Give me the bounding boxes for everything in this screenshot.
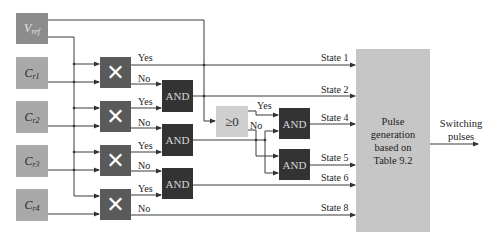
m2-no-label: No	[138, 118, 150, 128]
pulse-generation-block: Pulse generation based on Table 9.2	[356, 49, 430, 232]
m2-yes-label: Yes	[138, 97, 153, 107]
cr4-block: Cr4	[16, 189, 48, 221]
cr4-label: Cr4	[24, 198, 39, 213]
and-gate-3: AND	[162, 168, 193, 199]
m4-yes-label: Yes	[138, 184, 153, 194]
multiply-icon: ✕	[100, 189, 131, 220]
m4-no-label: No	[138, 204, 150, 214]
multiplier-4-symbol: ✕	[106, 192, 124, 217]
pulse-block-line-1: Pulse	[382, 115, 405, 128]
pulse-block-line-2: generation	[371, 128, 415, 141]
multiply-icon: ✕	[100, 101, 131, 132]
multiplier-2-symbol: ✕	[106, 104, 124, 129]
pulse-block-line-3: based on	[374, 141, 411, 154]
and-gate-2: AND	[162, 124, 193, 156]
and-gate-5: AND	[279, 149, 310, 180]
vref-block: Vref	[16, 13, 48, 44]
and-gate-1: AND	[162, 80, 193, 112]
switching-pulses-label: Switching pulses	[433, 117, 489, 143]
and-gate-2-label: AND	[166, 134, 190, 146]
multiplier-1-symbol: ✕	[106, 60, 124, 85]
and-gate-1-label: AND	[166, 90, 190, 102]
state-1-label: State 1	[321, 53, 349, 63]
multiply-icon: ✕	[100, 145, 131, 176]
state-6-label: State 6	[321, 173, 349, 183]
m1-yes-label: Yes	[138, 53, 153, 63]
cr1-label: Cr1	[24, 66, 39, 81]
and-gate-4-label: AND	[283, 118, 307, 130]
and-gate-5-label: AND	[283, 159, 307, 171]
cr2-label: Cr2	[24, 110, 39, 125]
output-line-2: pulses	[433, 130, 489, 143]
pulse-block-line-4: Table 9.2	[374, 154, 413, 167]
state-2-label: State 2	[321, 85, 349, 95]
state-4-label: State 4	[321, 113, 349, 123]
comparator-yes-label: Yes	[257, 101, 272, 111]
and-gate-4: AND	[279, 108, 310, 139]
state-8-label: State 8	[321, 203, 349, 213]
cr3-label: Cr3	[24, 154, 39, 169]
m3-yes-label: Yes	[138, 141, 153, 151]
multiply-icon: ✕	[100, 57, 131, 88]
cr3-block: Cr3	[16, 145, 48, 177]
comparator-no-label: No	[250, 121, 262, 131]
output-line-1: Switching	[433, 117, 489, 130]
cr1-block: Cr1	[16, 57, 48, 89]
multiplier-3-symbol: ✕	[106, 148, 124, 173]
m1-no-label: No	[138, 74, 150, 84]
state-5-label: State 5	[321, 153, 349, 163]
m3-no-label: No	[138, 161, 150, 171]
and-gate-3-label: AND	[166, 178, 190, 190]
comparator-block: ≥0	[216, 106, 248, 137]
cr2-block: Cr2	[16, 101, 48, 133]
vref-label: Vref	[24, 21, 40, 36]
comparator-label: ≥0	[225, 114, 239, 130]
